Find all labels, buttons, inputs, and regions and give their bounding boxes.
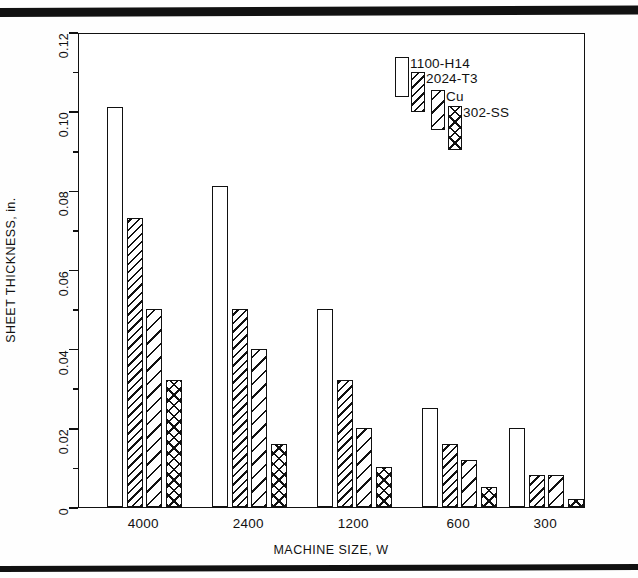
y-axis: 00.020.040.060.080.100.12 [0, 0, 78, 541]
x-group-label: 300 [534, 516, 557, 531]
y-tick-label: 0.12 [57, 33, 71, 58]
legend-swatch [411, 72, 425, 112]
y-tick-label: 0.10 [57, 112, 71, 137]
x-group-label: 600 [447, 516, 470, 531]
x-group-label: 1200 [338, 516, 369, 531]
figure-page: SHEET THICKNESS, in. 00.020.040.060.080.… [0, 0, 638, 578]
y-tick-label: 0.06 [57, 271, 71, 296]
y-tick-label: 0.04 [57, 350, 71, 375]
legend-label: Cu [446, 90, 464, 104]
x-axis-title: MACHINE SIZE, W [273, 543, 388, 557]
y-tick-label: 0.02 [57, 429, 71, 454]
y-tick-label: 0.08 [57, 191, 71, 216]
bottom-rule [0, 564, 638, 572]
legend-label: 2024-T3 [426, 72, 478, 86]
legend-swatch [431, 90, 445, 130]
x-group-label: 4000 [128, 516, 159, 531]
legend-swatch [448, 106, 462, 150]
legend-swatch [395, 57, 409, 97]
x-group-label: 2400 [233, 516, 264, 531]
y-tick-label: 0 [57, 508, 71, 515]
legend-label: 1100-H14 [410, 57, 470, 71]
plot-frame: 1100-H142024-T3Cu302-SS [78, 33, 585, 508]
top-rule [0, 6, 638, 17]
legend-label: 302-SS [463, 106, 509, 120]
legend: 1100-H142024-T3Cu302-SS [79, 34, 584, 507]
legend-item: 302-SS [448, 106, 509, 150]
